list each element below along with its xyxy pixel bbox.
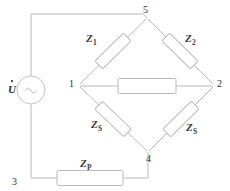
node-label-3: 3 — [12, 177, 17, 187]
component-label-zs-right: ZS — [186, 122, 197, 133]
voltage-source-label: U — [8, 84, 16, 95]
component-bridge-box — [118, 79, 176, 94]
phasor-dot-icon — [11, 80, 13, 82]
node-label-4: 4 — [146, 154, 151, 164]
circuit-diagram: Z1 Z2 ZS ZS ZP 5 1 2 4 3 U — [0, 0, 230, 191]
node-label-5: 5 — [143, 5, 148, 15]
component-label-z1: Z1 — [86, 33, 96, 44]
component-z1-box — [95, 33, 131, 69]
component-zp-box — [57, 171, 123, 186]
component-label-zs-left: ZS — [91, 119, 102, 130]
node-label-2: 2 — [217, 79, 222, 89]
node-label-1: 1 — [69, 79, 74, 89]
component-label-zp: ZP — [80, 158, 91, 169]
schematic-canvas — [0, 0, 230, 191]
component-label-z2: Z2 — [185, 33, 195, 44]
